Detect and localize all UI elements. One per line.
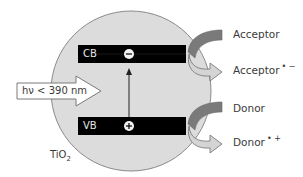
donor-label: Donor bbox=[233, 103, 265, 114]
vb-label: VB bbox=[83, 121, 97, 131]
tio2-label-main: TiO bbox=[50, 149, 66, 160]
hole-icon bbox=[124, 121, 134, 131]
electron-icon bbox=[124, 49, 134, 59]
acceptor-label: Acceptor bbox=[233, 29, 280, 40]
acceptor-incoming-arrow-icon bbox=[188, 30, 222, 58]
cb-label: CB bbox=[83, 49, 97, 59]
tio2-label: TiO2 bbox=[50, 150, 71, 160]
tio2-label-subscript: 2 bbox=[66, 155, 70, 163]
light-energy-label: hν < 390 nm bbox=[22, 86, 87, 96]
photocatalysis-diagram: CB VB hν < 390 nm Acceptor Acceptor• − D… bbox=[0, 0, 303, 177]
donor-radical-cation-label: Donor• + bbox=[233, 137, 281, 148]
acceptor-product-label: Acceptor bbox=[233, 64, 280, 76]
acceptor-charge: • − bbox=[282, 62, 296, 71]
donor-product-label: Donor bbox=[233, 136, 265, 148]
donor-charge: • + bbox=[267, 134, 281, 143]
acceptor-radical-anion-label: Acceptor• − bbox=[233, 65, 296, 76]
